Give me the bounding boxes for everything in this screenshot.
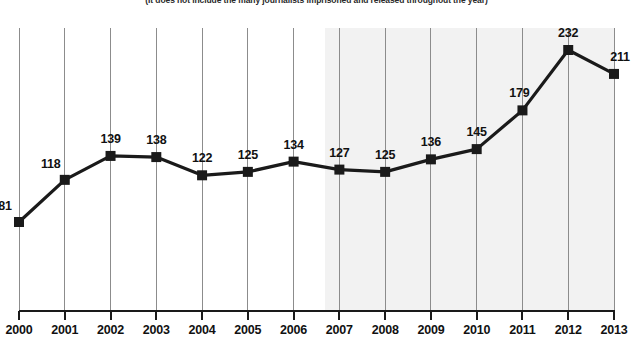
data-point-2013[interactable] — [609, 69, 619, 79]
data-label-2013: 211 — [610, 50, 630, 64]
x-axis-label-2000: 2000 — [5, 323, 32, 337]
data-label-2009: 136 — [421, 135, 441, 149]
x-axis-label-2008: 2008 — [372, 323, 399, 337]
data-point-2011[interactable] — [517, 105, 527, 115]
data-point-2010[interactable] — [472, 144, 482, 154]
data-label-2000: 81 — [0, 199, 12, 213]
data-point-2002[interactable] — [106, 151, 116, 161]
data-label-2004: 122 — [192, 151, 212, 165]
data-label-2010: 145 — [467, 125, 487, 139]
data-label-2007: 127 — [329, 146, 349, 160]
chart-root: (It does not include the many journalist… — [0, 0, 633, 357]
data-point-2000[interactable] — [14, 217, 24, 227]
x-axis-label-2011: 2011 — [509, 323, 535, 337]
x-axis-label-2009: 2009 — [417, 323, 444, 337]
data-point-2004[interactable] — [197, 170, 207, 180]
data-label-2008: 125 — [375, 148, 395, 162]
x-axis-label-2010: 2010 — [463, 323, 490, 337]
x-axis-label-2003: 2003 — [143, 323, 170, 337]
x-axis-label-2013: 2013 — [600, 323, 627, 337]
x-axis-label-2006: 2006 — [280, 323, 307, 337]
data-point-2012[interactable] — [563, 45, 573, 55]
x-axis-label-2002: 2002 — [97, 323, 124, 337]
data-point-2008[interactable] — [380, 167, 390, 177]
x-axis-label-2004: 2004 — [189, 323, 216, 337]
x-axis-label-2005: 2005 — [234, 323, 261, 337]
data-label-2003: 138 — [146, 133, 166, 147]
data-label-2012: 232 — [558, 26, 578, 40]
data-label-2002: 139 — [100, 132, 120, 146]
data-point-2003[interactable] — [151, 152, 161, 162]
x-axis-label-2012: 2012 — [555, 323, 582, 337]
data-point-2009[interactable] — [426, 154, 436, 164]
data-label-2005: 125 — [238, 148, 258, 162]
data-point-2001[interactable] — [60, 175, 70, 185]
x-axis-label-2007: 2007 — [326, 323, 353, 337]
x-axis-label-2001: 2001 — [51, 323, 78, 337]
data-label-2011: 179 — [509, 86, 529, 100]
data-label-2006: 134 — [283, 138, 303, 152]
data-point-2005[interactable] — [243, 167, 253, 177]
data-point-2007[interactable] — [334, 165, 344, 175]
series-line-chart — [0, 0, 633, 357]
data-label-2001: 118 — [41, 157, 61, 171]
data-point-2006[interactable] — [289, 157, 299, 167]
